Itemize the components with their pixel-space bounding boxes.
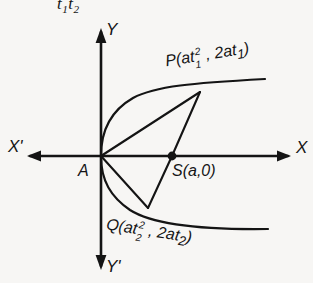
focus-point-marker: [168, 152, 177, 161]
y-negative-axis-label: Y': [106, 258, 121, 275]
y-axis-bottom-arrowhead: [96, 255, 107, 270]
focus-label-s: S(a,0): [172, 163, 216, 179]
x-axis-right-arrowhead: [277, 151, 291, 162]
parabola-diagram: t1t2 Y Y' X' X A S(a,0) P(at21, 2at1) Q(…: [0, 0, 313, 283]
x-axis-label: X: [296, 139, 307, 156]
x-axis-left-arrowhead: [27, 151, 41, 162]
focal-chord-s-to-q: [148, 156, 172, 208]
parabola-upper-branch: [101, 79, 265, 156]
y-axis-label: Y: [106, 21, 117, 38]
t1t2-note: t1t2: [57, 0, 80, 16]
x-negative-axis-label: X': [8, 138, 23, 155]
vertex-label-a: A: [78, 163, 89, 179]
y-axis-top-arrowhead: [96, 28, 107, 43]
chord-a-to-q: [101, 156, 148, 208]
